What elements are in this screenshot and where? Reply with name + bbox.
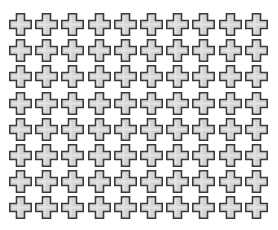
- cross-icon: [192, 13, 215, 36]
- cross-icon: [88, 118, 111, 141]
- cross-icon: [88, 13, 111, 36]
- cross-icon: [114, 170, 137, 193]
- cross-icon: [166, 170, 189, 193]
- cross-icon: [166, 92, 189, 115]
- cross-icon: [245, 118, 268, 141]
- cross-icon: [219, 144, 242, 167]
- cross-icon: [166, 65, 189, 88]
- cross-icon: [192, 170, 215, 193]
- cross-icon: [166, 144, 189, 167]
- cross-icon: [88, 196, 111, 219]
- cross-icon: [140, 13, 163, 36]
- cross-icon: [140, 65, 163, 88]
- cross-icon: [140, 170, 163, 193]
- cross-icon: [166, 196, 189, 219]
- cross-icon: [61, 39, 84, 62]
- cross-icon: [192, 196, 215, 219]
- cross-icon: [9, 196, 32, 219]
- cross-icon: [114, 13, 137, 36]
- cross-icon: [114, 118, 137, 141]
- cross-icon: [9, 144, 32, 167]
- cross-icon: [192, 92, 215, 115]
- cross-icon: [9, 170, 32, 193]
- cross-icon: [219, 196, 242, 219]
- cross-icon: [245, 13, 268, 36]
- cross-icon: [61, 65, 84, 88]
- cross-icon: [219, 92, 242, 115]
- cross-icon: [9, 92, 32, 115]
- cross-icon: [114, 39, 137, 62]
- cross-icon: [35, 13, 58, 36]
- cross-icon: [219, 39, 242, 62]
- cross-icon: [61, 118, 84, 141]
- cross-icon: [166, 118, 189, 141]
- cross-icon: [61, 196, 84, 219]
- cross-icon: [245, 196, 268, 219]
- cross-icon: [219, 170, 242, 193]
- cross-icon: [61, 170, 84, 193]
- cross-icon: [140, 118, 163, 141]
- cross-icon: [114, 92, 137, 115]
- cross-icon: [114, 196, 137, 219]
- cross-icon: [166, 13, 189, 36]
- cross-icon: [61, 13, 84, 36]
- cross-icon: [114, 65, 137, 88]
- cross-icon: [88, 170, 111, 193]
- cross-icon: [140, 92, 163, 115]
- cross-icon: [9, 118, 32, 141]
- cross-icon: [35, 170, 58, 193]
- cross-icon: [192, 118, 215, 141]
- cross-icon: [192, 144, 215, 167]
- cross-icon: [88, 144, 111, 167]
- cross-icon: [245, 144, 268, 167]
- cross-icon: [35, 39, 58, 62]
- cross-icon: [192, 39, 215, 62]
- cross-icon: [88, 92, 111, 115]
- cross-icon: [245, 92, 268, 115]
- cross-icon: [245, 65, 268, 88]
- cross-icon: [219, 65, 242, 88]
- cross-icon: [219, 13, 242, 36]
- cross-icon: [140, 39, 163, 62]
- cross-icon: [35, 92, 58, 115]
- cross-icon: [245, 39, 268, 62]
- cross-icon: [35, 65, 58, 88]
- cross-icon: [166, 39, 189, 62]
- cross-icon: [88, 65, 111, 88]
- cross-icon: [61, 92, 84, 115]
- cross-icon: [9, 13, 32, 36]
- cross-icon: [88, 39, 111, 62]
- cross-icon: [140, 196, 163, 219]
- cross-icon: [35, 118, 58, 141]
- cross-icon: [9, 39, 32, 62]
- cross-icon: [219, 118, 242, 141]
- cross-icon: [35, 196, 58, 219]
- cross-icon: [245, 170, 268, 193]
- cross-icon: [140, 144, 163, 167]
- cross-icon: [114, 144, 137, 167]
- cross-icon: [9, 65, 32, 88]
- cross-icon: [61, 144, 84, 167]
- cross-icon: [192, 65, 215, 88]
- cross-icon: [35, 144, 58, 167]
